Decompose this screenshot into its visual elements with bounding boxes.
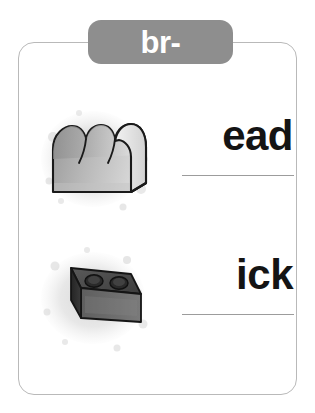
blend-header-label: br-: [141, 27, 181, 58]
blank-write-line-bread[interactable]: [182, 175, 294, 176]
brick-body: [71, 268, 141, 322]
worksheet-row-bread: ead: [19, 97, 298, 222]
phonics-worksheet: ead: [0, 0, 315, 413]
brick-illustration: [31, 236, 159, 361]
answer-cell-brick: ick: [155, 236, 298, 361]
worksheet-card: ead: [18, 42, 297, 395]
answer-cell-bread: ead: [155, 97, 298, 222]
worksheet-row-brick: ick: [19, 236, 298, 361]
word-ending-brick: ick: [236, 254, 293, 296]
picture-cell-brick: [31, 236, 159, 361]
blend-header-tab: br-: [88, 20, 233, 64]
bread-loaf-illustration: [31, 97, 159, 222]
picture-cell-bread: [31, 97, 159, 222]
word-ending-bread: ead: [222, 115, 293, 157]
blank-write-line-brick[interactable]: [182, 314, 294, 315]
bread-body: [53, 124, 146, 192]
